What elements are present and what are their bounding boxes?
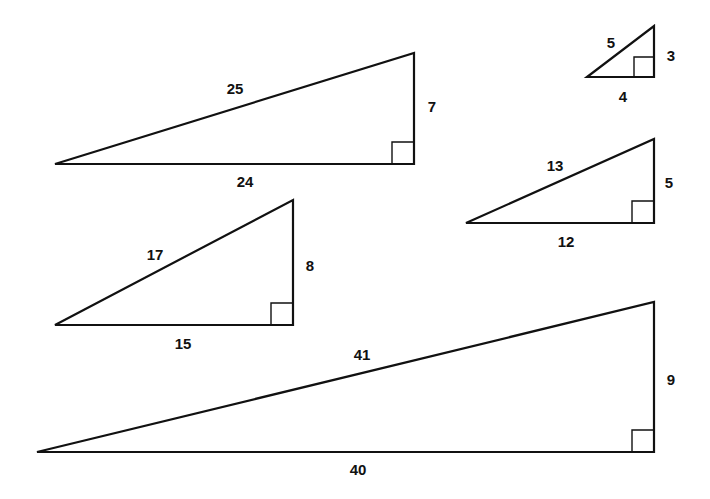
vertical-leg-label: 9 bbox=[667, 371, 675, 388]
vertical-leg-label: 3 bbox=[667, 47, 675, 64]
horizontal-leg-label: 12 bbox=[558, 233, 575, 250]
right-angle-marker bbox=[632, 201, 654, 223]
right-angle-marker bbox=[632, 430, 654, 452]
hypotenuse-label: 5 bbox=[607, 34, 615, 51]
triangle-outline bbox=[55, 200, 293, 325]
right-triangle-t-5-12-13 bbox=[466, 139, 654, 223]
hypotenuse-label: 17 bbox=[147, 246, 164, 263]
triangle-outline bbox=[55, 53, 414, 164]
horizontal-leg-label: 15 bbox=[175, 335, 192, 352]
hypotenuse-label: 41 bbox=[354, 346, 371, 363]
vertical-leg-label: 5 bbox=[665, 174, 673, 191]
triangle-outline bbox=[587, 26, 654, 77]
right-angle-marker bbox=[634, 57, 654, 77]
vertical-leg-label: 7 bbox=[428, 98, 436, 115]
right-triangle-t-7-24-25 bbox=[55, 53, 414, 164]
horizontal-leg-label: 4 bbox=[619, 88, 627, 105]
triangles-canvas bbox=[0, 0, 710, 499]
right-angle-marker bbox=[271, 303, 293, 325]
hypotenuse-label: 25 bbox=[227, 80, 244, 97]
triangle-outline bbox=[466, 139, 654, 223]
right-triangle-t-3-4-5 bbox=[587, 26, 654, 77]
horizontal-leg-label: 24 bbox=[237, 173, 254, 190]
hypotenuse-label: 13 bbox=[547, 157, 564, 174]
right-angle-marker bbox=[392, 142, 414, 164]
right-triangle-t-8-15-17 bbox=[55, 200, 293, 325]
vertical-leg-label: 8 bbox=[306, 257, 314, 274]
horizontal-leg-label: 40 bbox=[350, 461, 367, 478]
